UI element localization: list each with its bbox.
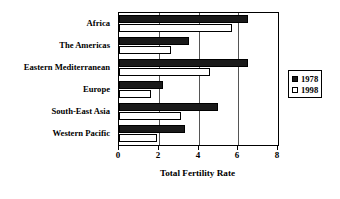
category-label: Africa xyxy=(0,18,110,28)
bar-group xyxy=(119,79,278,101)
plot-inner xyxy=(119,13,278,145)
x-axis-tick-labels: 02468 xyxy=(0,150,340,164)
category-axis-labels: AfricaThe AmericasEastern MediterraneanE… xyxy=(0,12,114,144)
bar-1998 xyxy=(119,90,151,98)
bar-group xyxy=(119,101,278,123)
bar-1978 xyxy=(119,103,218,111)
bar-1998 xyxy=(119,24,232,32)
bar-1978 xyxy=(119,81,163,89)
x-tick-label: 2 xyxy=(147,150,169,161)
x-tick-label: 6 xyxy=(226,150,248,161)
legend-entry: 1978 xyxy=(292,73,318,84)
bar-group xyxy=(119,57,278,79)
fertility-rate-bar-chart: AfricaThe AmericasEastern MediterraneanE… xyxy=(0,0,340,199)
x-tick-label: 4 xyxy=(187,150,209,161)
filled-square-icon xyxy=(292,76,298,82)
bar-group xyxy=(119,123,278,145)
category-label: South-East Asia xyxy=(0,106,110,116)
bar-1978 xyxy=(119,59,248,67)
bar-1978 xyxy=(119,125,185,133)
bar-1998 xyxy=(119,68,210,76)
bar-1998 xyxy=(119,46,171,54)
x-axis-title: Total Fertility Rate xyxy=(118,167,277,179)
bar-group xyxy=(119,13,278,35)
bar-group xyxy=(119,35,278,57)
open-square-icon xyxy=(292,87,298,93)
category-label: Western Pacific xyxy=(0,128,110,138)
legend-label: 1998 xyxy=(301,85,318,95)
bar-1998 xyxy=(119,112,181,120)
category-label: Eastern Mediterranean xyxy=(0,62,110,72)
bar-1998 xyxy=(119,134,157,142)
category-label: Europe xyxy=(0,84,110,94)
bar-1978 xyxy=(119,15,248,23)
plot-area xyxy=(118,12,279,146)
category-label: The Americas xyxy=(0,40,110,50)
bar-1978 xyxy=(119,37,189,45)
chart-legend: 19781998 xyxy=(288,70,322,98)
legend-entry: 1998 xyxy=(292,84,318,95)
legend-label: 1978 xyxy=(301,74,318,84)
x-tick-label: 8 xyxy=(266,150,288,161)
x-tick-label: 0 xyxy=(107,150,129,161)
